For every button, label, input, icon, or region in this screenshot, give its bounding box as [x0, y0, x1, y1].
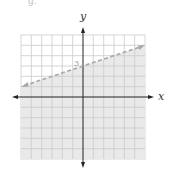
x-axis-right-arrow-icon	[148, 95, 154, 99]
problem-label: g.	[28, 0, 37, 6]
y-axis-down-arrow-icon	[81, 162, 85, 168]
y-axis-label: y	[79, 10, 87, 23]
x-axis-left-arrow-icon	[12, 95, 18, 99]
y-intercept-label: 3	[74, 59, 79, 68]
y-axis-up-arrow-icon	[81, 27, 85, 33]
coordinate-plane: y x 3 g.	[0, 0, 172, 180]
x-axis-label: x	[158, 90, 165, 103]
